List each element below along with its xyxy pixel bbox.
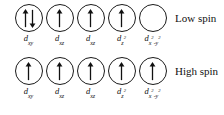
spin-state-label-high-spin: High spin	[175, 65, 218, 77]
orbital-low-spin-0: dxy	[13, 4, 44, 43]
orbital-low-spin-2-circle	[77, 4, 105, 32]
orbital-high-spin-1-label: dxz	[55, 87, 64, 96]
electron-arrow-up	[56, 62, 63, 81]
orbital-high-spin-2-label: dxz	[86, 87, 95, 96]
orbital-low-spin-4-circle	[139, 4, 167, 32]
orbital-track-high-spin: dxydxzdxzdz2dx2-y2	[13, 57, 168, 96]
orbital-high-spin-1-circle	[46, 57, 74, 85]
orbital-high-spin-4-circle	[139, 57, 167, 85]
electron-arrow-up	[87, 9, 94, 28]
orbital-high-spin-4: dx2-y2	[137, 57, 168, 96]
orbital-high-spin-3: dz2	[106, 57, 137, 96]
electron-arrow-up	[118, 9, 125, 28]
crystal-field-diagram: dxydxzdxzdz2dx2-y2Low spindxydxzdxzdz2dx…	[0, 0, 224, 115]
orbital-low-spin-2-label: dxz	[86, 34, 95, 43]
orbital-high-spin-4-label: dx2-y2	[144, 87, 160, 96]
electron-arrow-up	[118, 62, 125, 81]
electron-arrow-up	[25, 62, 32, 81]
orbital-high-spin-3-circle	[108, 57, 136, 85]
electron-arrow-up	[87, 62, 94, 81]
orbital-high-spin-1: dxz	[44, 57, 75, 96]
orbital-low-spin-4: dx2-y2	[137, 4, 168, 43]
orbital-high-spin-0-circle	[15, 57, 43, 85]
electron-arrow-down	[29, 9, 36, 28]
orbital-low-spin-2: dxz	[75, 4, 106, 43]
electron-pair	[22, 9, 36, 28]
orbital-low-spin-4-label: dx2-y2	[144, 34, 160, 43]
orbital-high-spin-3-label: dz2	[117, 87, 126, 96]
orbital-track-low-spin: dxydxzdxzdz2dx2-y2	[13, 4, 168, 43]
orbital-high-spin-2: dxz	[75, 57, 106, 96]
orbital-low-spin-1-circle	[46, 4, 74, 32]
orbital-low-spin-3-label: dz2	[117, 34, 126, 43]
orbital-low-spin-0-circle	[15, 4, 43, 32]
orbital-low-spin-3-circle	[108, 4, 136, 32]
orbital-low-spin-1: dxz	[44, 4, 75, 43]
spin-state-label-low-spin: Low spin	[175, 12, 216, 24]
electron-arrow-up	[149, 62, 156, 81]
electron-arrow-up	[56, 9, 63, 28]
orbital-high-spin-0-label: dxy	[24, 87, 34, 96]
orbital-low-spin-1-label: dxz	[55, 34, 64, 43]
orbital-high-spin-2-circle	[77, 57, 105, 85]
electron-arrow-up	[22, 9, 29, 28]
orbital-low-spin-3: dz2	[106, 4, 137, 43]
orbital-low-spin-0-label: dxy	[24, 34, 34, 43]
orbital-high-spin-0: dxy	[13, 57, 44, 96]
